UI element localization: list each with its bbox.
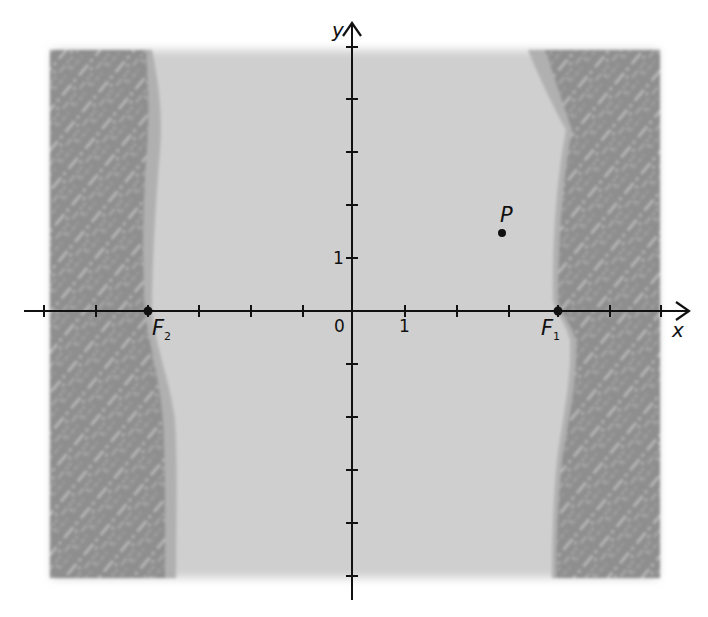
diagram-canvas (0, 0, 708, 617)
origin-label: 0 (334, 318, 345, 335)
y-unit-label: 1 (333, 250, 344, 267)
focus-f2-label: F2 (152, 318, 171, 339)
focus-f1-point (554, 307, 563, 316)
focus-f1-letter: F (541, 316, 553, 340)
x-axis-label: x (672, 320, 684, 340)
focus-f2-point (144, 307, 153, 316)
focus-f1-label: F1 (541, 318, 560, 339)
hyperbola-river-diagram: y x 0 1 1 F2 F1 P (0, 0, 708, 617)
point-p-label: P (500, 205, 513, 226)
y-axis-label: y (332, 20, 344, 40)
focus-f2-letter: F (152, 316, 164, 340)
point-p (498, 229, 506, 237)
focus-f1-subscript: 1 (553, 330, 560, 343)
x-unit-label: 1 (399, 318, 410, 335)
focus-f2-subscript: 2 (164, 330, 171, 343)
